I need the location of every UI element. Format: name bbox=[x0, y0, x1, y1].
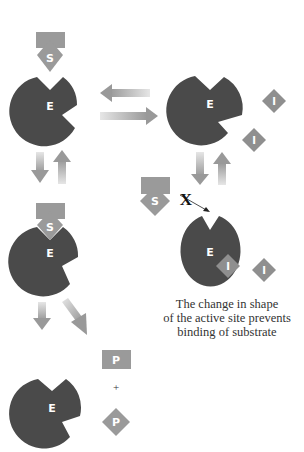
svg-text:P: P bbox=[112, 416, 120, 429]
inhibitor-2: I bbox=[242, 128, 266, 152]
product-1: P bbox=[102, 350, 131, 369]
svg-text:S: S bbox=[46, 221, 54, 234]
inhibitor-3: I bbox=[252, 258, 276, 282]
caption: The change in shape of the active site p… bbox=[150, 297, 304, 339]
enzyme-free-2: E bbox=[166, 76, 242, 145]
blocked-arrow: X bbox=[180, 190, 210, 212]
svg-text:I: I bbox=[252, 135, 256, 146]
enzyme-inhibition-diagram: S E E I I S E bbox=[0, 0, 304, 452]
equilibrium-arrows-horizontal bbox=[100, 84, 158, 125]
svg-text:S: S bbox=[151, 195, 159, 208]
svg-text:I: I bbox=[272, 96, 276, 107]
svg-text:E: E bbox=[206, 246, 214, 259]
svg-text:X: X bbox=[180, 190, 193, 209]
svg-text:S: S bbox=[46, 52, 54, 65]
caption-line-2: of the active site prevents bbox=[150, 311, 304, 325]
svg-text:E: E bbox=[206, 98, 214, 111]
equilibrium-arrows-right bbox=[191, 152, 231, 185]
equilibrium-arrows-left bbox=[31, 150, 71, 184]
svg-text:I: I bbox=[262, 265, 266, 276]
reaction-arrows bbox=[33, 298, 87, 335]
inhibitor-1: I bbox=[262, 89, 286, 113]
product-2: P bbox=[102, 408, 130, 436]
caption-line-3: binding of substrate bbox=[150, 325, 304, 339]
svg-text:E: E bbox=[46, 247, 54, 260]
plus-sign: + bbox=[113, 381, 119, 393]
svg-text:P: P bbox=[112, 354, 120, 367]
enzyme-inhibitor-complex: E I bbox=[180, 216, 240, 287]
enzyme-substrate-complex: S E bbox=[8, 203, 78, 296]
svg-text:E: E bbox=[48, 402, 56, 415]
svg-text:E: E bbox=[46, 100, 54, 113]
substrate-blocked: S bbox=[140, 177, 170, 216]
caption-line-1: The change in shape bbox=[150, 297, 304, 311]
enzyme-free-1: E bbox=[9, 77, 77, 146]
enzyme-free-3: E bbox=[9, 379, 81, 448]
substrate-approaching: S bbox=[36, 32, 65, 72]
svg-text:I: I bbox=[226, 261, 230, 272]
